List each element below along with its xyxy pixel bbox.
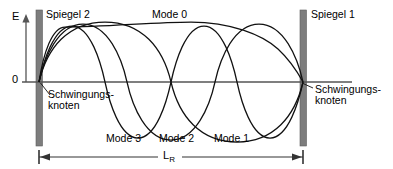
annotation-node-right: Schwingungs- knoten (315, 84, 381, 106)
curve-label-mode-1: Mode 1 (214, 133, 249, 144)
y-axis-zero-label: 0 (12, 74, 18, 85)
figure-standing-wave-modes: E 0 Spiegel 2 Spiegel 1 Mode 0 Mode 3 Mo… (0, 0, 393, 169)
annotation-node-left: Schwingungs- knoten (48, 89, 114, 111)
dimension-label-LR: LR (163, 150, 175, 165)
y-axis-arrow (22, 14, 29, 82)
curve-label-mode-2: Mode 2 (159, 133, 194, 144)
y-axis-label: E (12, 11, 19, 22)
curve-mode-0 (39, 22, 303, 82)
mirror-left-label: Spiegel 2 (46, 9, 90, 20)
curve-label-mode-3: Mode 3 (106, 133, 141, 144)
curve-label-mode-0: Mode 0 (152, 9, 187, 20)
mirror-right-label: Spiegel 1 (311, 9, 355, 20)
dimension-label-subscript: R (169, 155, 175, 164)
